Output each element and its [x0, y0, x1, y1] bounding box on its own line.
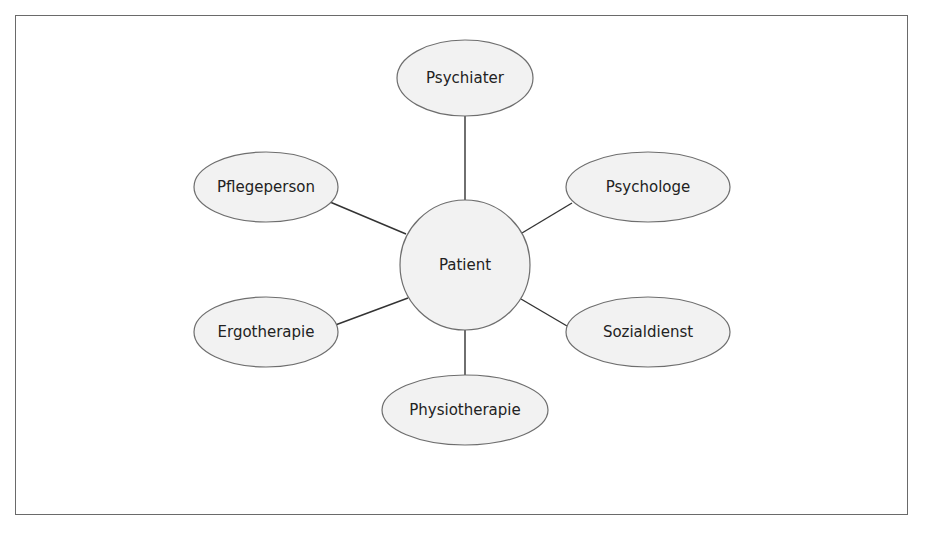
node-label: Psychologe [606, 178, 691, 196]
node-label: Ergotherapie [218, 323, 315, 341]
node-label: Physiotherapie [409, 401, 520, 419]
node-physiotherapie: Physiotherapie [382, 375, 548, 445]
node-label: Sozialdienst [603, 323, 693, 341]
edge-patient-sozialdienst [521, 299, 567, 326]
edge-patient-ergotherapie [330, 298, 408, 327]
edge-patient-psychologe [522, 203, 572, 233]
node-psychiater: Psychiater [397, 40, 533, 116]
node-ergotherapie: Ergotherapie [194, 297, 338, 367]
node-pflegeperson: Pflegeperson [194, 152, 338, 222]
node-sozialdienst: Sozialdienst [566, 297, 730, 367]
center-node-patient: Patient [400, 200, 530, 330]
diagram-canvas: Patient Psychiater Pflegeperson Psycholo… [0, 0, 927, 534]
node-label: Psychiater [426, 69, 505, 87]
edge-patient-pflegeperson [330, 202, 406, 234]
node-label: Pflegeperson [217, 178, 315, 196]
node-psychologe: Psychologe [566, 152, 730, 222]
center-node-label: Patient [439, 256, 491, 274]
